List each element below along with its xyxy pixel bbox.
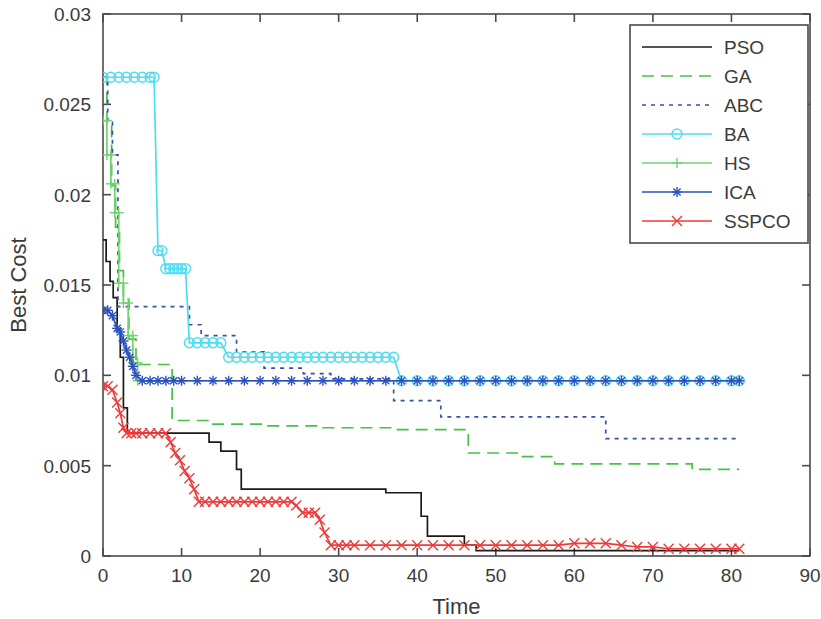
series-pso [103,240,739,551]
chart-figure: 010203040506070809000.0050.010.0150.020.… [0,0,821,619]
x-tick-label: 90 [799,565,820,586]
legend: PSOGAABCBAHSICASSPCO [630,25,808,243]
y-axis-title: Best Cost [6,237,31,332]
legend-label-hs: HS [724,153,750,174]
y-tick-label: 0.01 [54,365,91,386]
x-axis-title: Time [432,594,480,619]
legend-label-pso: PSO [724,37,764,58]
x-tick-label: 70 [642,565,663,586]
x-tick-label: 60 [564,565,585,586]
y-tick-label: 0.03 [54,4,91,25]
x-tick-label: 50 [485,565,506,586]
y-tick-label: 0.015 [43,275,91,296]
legend-label-abc: ABC [724,95,763,116]
legend-label-sspco: SSPCO [724,211,791,232]
series-line-sspco [103,386,739,549]
y-tick-label: 0.02 [54,185,91,206]
y-tick-label: 0 [80,546,91,567]
x-tick-label: 30 [328,565,349,586]
x-tick-label: 0 [98,565,109,586]
legend-label-ica: ICA [724,182,756,203]
x-tick-label: 80 [721,565,742,586]
x-tick-label: 40 [407,565,428,586]
series-line-ica [103,310,739,380]
series-sspco [98,381,744,554]
series-ica [98,305,744,385]
x-tick-label: 20 [250,565,271,586]
legend-label-ga: GA [724,66,752,87]
y-tick-label: 0.025 [43,94,91,115]
best-cost-vs-time-line-chart: 010203040506070809000.0050.010.0150.020.… [0,0,821,619]
y-tick-label: 0.005 [43,456,91,477]
x-tick-label: 10 [171,565,192,586]
series-line-pso [103,240,739,551]
legend-label-ba: BA [724,124,750,145]
